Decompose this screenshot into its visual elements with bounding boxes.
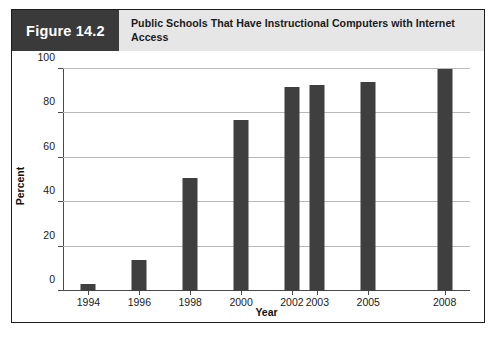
x-tick-label: 2000 <box>229 296 252 308</box>
bar <box>81 284 96 291</box>
y-tick-mark <box>58 246 63 247</box>
plot-area: 020406080100 199419961998200020022003200… <box>63 69 470 291</box>
axes-frame <box>63 69 470 291</box>
figure-container: Figure 14.2 Public Schools That Have Ins… <box>11 9 485 323</box>
x-tick-mark <box>190 291 191 295</box>
gridline <box>63 157 470 158</box>
gridline <box>63 201 470 202</box>
x-tick-mark <box>241 291 242 295</box>
bar <box>437 69 452 291</box>
figure-title-block: Public Schools That Have Instructional C… <box>119 10 484 51</box>
y-tick-label: 0 <box>49 273 55 285</box>
y-tick-mark <box>58 112 63 113</box>
x-tick-label: 2005 <box>357 296 380 308</box>
x-tick-label: 1998 <box>179 296 202 308</box>
bar <box>361 82 376 291</box>
bar <box>310 85 325 291</box>
figure-title: Public Schools That Have Instructional C… <box>131 17 476 44</box>
bar <box>183 178 198 291</box>
y-tick-label: 20 <box>43 229 55 241</box>
x-tick-mark <box>88 291 89 295</box>
bar <box>132 260 147 291</box>
x-axis-label: Year <box>63 306 470 318</box>
x-tick-label: 1996 <box>128 296 151 308</box>
chart-region: Percent Year 020406080100 19941996199820… <box>12 51 484 322</box>
bar <box>234 120 249 291</box>
x-tick-mark <box>292 291 293 295</box>
y-tick-mark <box>58 68 63 69</box>
x-tick-label: 2008 <box>433 296 456 308</box>
y-tick-mark <box>58 201 63 202</box>
x-tick-mark <box>317 291 318 295</box>
y-tick-label: 40 <box>43 184 55 196</box>
y-tick-mark <box>58 157 63 158</box>
x-tick-label: 2003 <box>306 296 329 308</box>
y-tick-label: 60 <box>43 140 55 152</box>
x-tick-mark <box>445 291 446 295</box>
y-axis-label: Percent <box>14 167 26 206</box>
gridline <box>63 112 470 113</box>
figure-number-block: Figure 14.2 <box>12 10 119 51</box>
x-tick-mark <box>368 291 369 295</box>
gridline <box>63 68 470 69</box>
x-tick-label: 2002 <box>280 296 303 308</box>
y-tick-mark <box>58 290 63 291</box>
x-tick-label: 1994 <box>77 296 100 308</box>
y-tick-label: 80 <box>43 95 55 107</box>
gridline <box>63 246 470 247</box>
figure-number-label: Figure 14.2 <box>26 23 105 39</box>
bar <box>284 87 299 291</box>
y-tick-label: 100 <box>37 51 55 63</box>
figure-header: Figure 14.2 Public Schools That Have Ins… <box>12 10 484 51</box>
x-tick-mark <box>139 291 140 295</box>
